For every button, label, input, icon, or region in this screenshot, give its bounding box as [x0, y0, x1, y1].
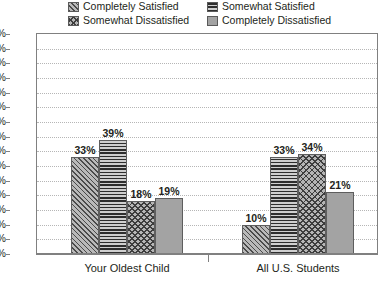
y-axis-tick-mark	[6, 195, 10, 196]
gridline	[37, 137, 377, 138]
bar-value-label: 39%	[95, 128, 131, 139]
y-axis-tick-mark	[6, 93, 10, 94]
y-axis-tick-mark	[6, 122, 10, 123]
gridline	[37, 107, 377, 108]
bar[interactable]	[71, 157, 99, 254]
legend-swatch-horizontal-lines-icon	[207, 2, 218, 12]
y-axis-tick-label: 60%	[0, 73, 6, 83]
bar-chart: Completely Satisfied Somewhat Satisfied …	[0, 0, 387, 285]
y-axis-tick-mark	[6, 63, 10, 64]
y-axis-tick-mark	[6, 254, 10, 255]
gridline	[37, 122, 377, 123]
legend-item-somewhat-satisfied[interactable]: Somewhat Satisfied	[207, 1, 315, 12]
bar[interactable]	[270, 157, 298, 254]
y-axis-tick-mark	[6, 166, 10, 167]
legend-swatch-diagonal-hatch-icon	[68, 2, 79, 12]
y-axis-tick-label: 40%	[0, 132, 6, 142]
bar-value-label: 33%	[67, 145, 103, 156]
y-axis-tick-mark	[6, 78, 10, 79]
y-axis-tick-label: 25%	[0, 176, 6, 186]
y-axis-tick-label: 70%	[0, 44, 6, 54]
y-axis-tick-label: 5%	[0, 234, 6, 244]
gridline	[37, 93, 377, 94]
legend-item-completely-satisfied[interactable]: Completely Satisfied	[68, 1, 179, 12]
bar-value-label: 21%	[322, 180, 358, 191]
x-axis-group-separator	[208, 255, 209, 262]
y-axis-tick-label: 20%	[0, 190, 6, 200]
bar[interactable]	[298, 154, 326, 254]
legend-label: Completely Satisfied	[83, 1, 179, 12]
y-axis-tick-label: 50%	[0, 102, 6, 112]
bar-value-label: 19%	[151, 186, 187, 197]
legend-item-completely-dissatisfied[interactable]: Completely Dissatisfied	[207, 15, 331, 26]
y-axis-tick-label: 45%	[0, 117, 6, 127]
bar-value-label: 10%	[238, 213, 274, 224]
gridline	[37, 49, 377, 50]
x-axis-baseline	[37, 253, 377, 254]
bar[interactable]	[127, 201, 155, 254]
y-axis-tick-mark	[6, 49, 10, 50]
y-axis-tick-label: 55%	[0, 88, 6, 98]
y-axis-tick-mark	[6, 210, 10, 211]
y-axis-tick-mark	[6, 137, 10, 138]
x-axis-category-label: Your Oldest Child	[47, 262, 207, 274]
y-axis-tick-mark	[6, 34, 10, 35]
bar-value-label: 34%	[294, 142, 330, 153]
y-axis-tick-label: 15%	[0, 205, 6, 215]
gridline	[37, 63, 377, 64]
bar[interactable]	[242, 225, 270, 254]
plot-area: 33%39%18%19%10%33%34%21%	[36, 33, 378, 255]
legend-swatch-cross-hatch-icon	[68, 16, 79, 26]
y-axis-tick-label: 75%	[0, 29, 6, 39]
legend-label: Completely Dissatisfied	[222, 15, 331, 26]
legend-label: Somewhat Dissatisfied	[83, 15, 189, 26]
y-axis-tick-mark	[6, 181, 10, 182]
bar[interactable]	[155, 198, 183, 254]
legend-label: Somewhat Satisfied	[222, 1, 315, 12]
y-axis-tick-label: 10%	[0, 220, 6, 230]
y-axis-tick-mark	[6, 107, 10, 108]
y-axis-tick-label: 35%	[0, 146, 6, 156]
bar[interactable]	[326, 192, 354, 254]
y-axis-tick-mark	[6, 225, 10, 226]
y-axis-tick-label: 30%	[0, 161, 6, 171]
y-axis-tick-mark	[6, 151, 10, 152]
y-axis-tick-mark	[6, 239, 10, 240]
legend-swatch-solid-gray-icon	[207, 16, 218, 26]
y-axis-tick-label: 65%	[0, 58, 6, 68]
x-axis-category-label: All U.S. Students	[218, 262, 378, 274]
legend-item-somewhat-dissatisfied[interactable]: Somewhat Dissatisfied	[68, 15, 189, 26]
gridline	[37, 78, 377, 79]
chart-legend: Completely Satisfied Somewhat Satisfied …	[68, 0, 368, 29]
y-axis-tick-label: 0%	[0, 249, 6, 259]
